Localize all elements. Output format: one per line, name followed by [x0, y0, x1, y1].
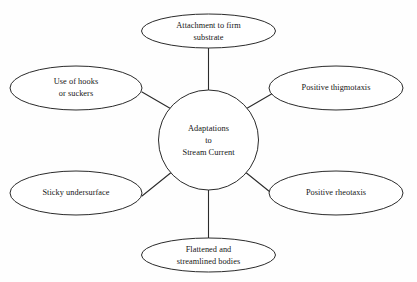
node-attachment-to-firm-substrate[interactable] — [142, 14, 276, 48]
concept-map-svg: Adaptations to Stream Current Attachment… — [0, 0, 417, 282]
diagram-canvas: Adaptations to Stream Current Attachment… — [0, 0, 417, 282]
node-positive-thigmotaxis-line1: Positive thigmotaxis — [302, 83, 371, 92]
node-flattened-and-streamlined-bodies-line2: streamlined bodies — [177, 257, 240, 266]
center-node-line1: Adaptations — [188, 124, 229, 133]
connector-center-to-upper-left — [142, 92, 173, 110]
node-flattened-and-streamlined-bodies-line1: Flattened and — [186, 245, 232, 254]
node-sticky-undersurface-line1: Sticky undersurface — [42, 188, 109, 197]
node-positive-rheotaxis-line1: Positive rheotaxis — [306, 188, 366, 197]
node-use-of-hooks-or-suckers-line1: Use of hooks — [54, 77, 98, 86]
connector-center-to-lower-left — [142, 171, 173, 196]
node-use-of-hooks-or-suckers-line2: or suckers — [59, 89, 93, 98]
center-node-line2: to — [205, 136, 212, 145]
center-node-line3: Stream Current — [182, 148, 235, 157]
connector-center-to-upper-right — [244, 92, 275, 110]
node-attachment-to-firm-substrate-line2: substrate — [194, 33, 224, 42]
node-attachment-to-firm-substrate-line1: Attachment to firm — [176, 21, 241, 30]
node-flattened-and-streamlined-bodies[interactable] — [142, 238, 276, 272]
